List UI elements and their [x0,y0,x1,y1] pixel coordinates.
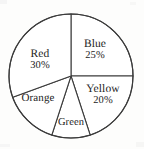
slice-label-red-name: Red [20,48,60,60]
slice-label-blue-percent: 25% [74,50,116,61]
slice-label-red-percent: 30% [20,60,60,71]
slice-label-green: Green [50,117,92,128]
pie-chart-figure: Blue 25% Red 30% Yellow 20% Orange Green [0,0,144,149]
slice-label-yellow: Yellow 20% [80,83,126,107]
slice-label-yellow-name: Yellow [80,83,126,95]
slice-label-blue-name: Blue [74,38,116,50]
slice-label-blue: Blue 25% [74,38,116,62]
slice-label-orange-name: Orange [14,93,62,105]
slice-label-green-name: Green [50,117,92,128]
slice-label-yellow-percent: 20% [80,95,126,106]
slice-label-red: Red 30% [20,48,60,72]
slice-label-orange: Orange [14,93,62,105]
